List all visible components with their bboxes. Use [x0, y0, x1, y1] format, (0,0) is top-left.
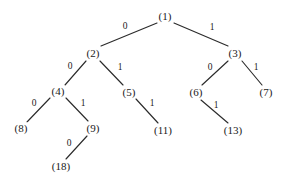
edge-label-n1-n3: 1 — [210, 23, 215, 33]
tree-edge-n3-n7 — [242, 61, 262, 85]
tree-edge-n1-n2 — [101, 23, 157, 46]
tree-node-8: (8) — [14, 123, 28, 134]
edge-label-n9-n18: 0 — [67, 139, 72, 149]
tree-node-18: (18) — [51, 161, 70, 172]
edge-label-n3-n7: 1 — [254, 63, 259, 73]
edge-label-n1-n2: 0 — [123, 22, 128, 32]
tree-node-5: (5) — [122, 87, 136, 98]
edge-label-n2-n5: 1 — [118, 63, 123, 73]
tree-node-9: (9) — [86, 123, 100, 134]
edge-label-n5-n11: 1 — [150, 99, 155, 109]
tree-node-1: (1) — [158, 11, 172, 22]
tree-node-6: (6) — [189, 87, 203, 98]
binary-tree-diagram: 01010110011 (1)(2)(3)(4)(5)(6)(7)(8)(9)(… — [0, 0, 284, 184]
edge-label-n6-n13: 1 — [214, 101, 219, 111]
tree-edge-n1-n3 — [174, 23, 228, 46]
tree-edge-n5-n11 — [136, 99, 158, 123]
tree-node-7: (7) — [259, 87, 273, 98]
edge-label-n4-n9: 1 — [81, 99, 86, 109]
tree-node-4: (4) — [51, 86, 65, 97]
tree-node-2: (2) — [86, 48, 100, 59]
tree-edges-layer — [0, 0, 284, 184]
tree-node-3: (3) — [228, 48, 242, 59]
edge-label-n2-n4: 0 — [68, 62, 73, 72]
edge-label-n4-n8: 0 — [32, 99, 37, 109]
tree-edge-n4-n8 — [27, 98, 50, 122]
tree-node-13: (13) — [223, 125, 242, 136]
tree-edge-n3-n6 — [202, 61, 228, 85]
edge-label-n3-n6: 0 — [208, 63, 213, 73]
tree-node-11: (11) — [154, 125, 173, 136]
